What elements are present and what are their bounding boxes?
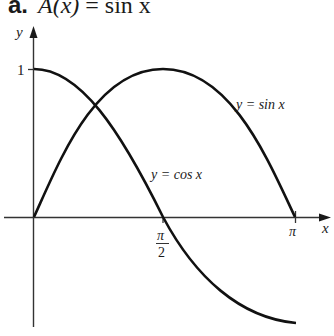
plot-area: y x 1 π 2 π y = sin x y = cos x [0, 0, 334, 336]
x-tick-label-pi-over-2-den: 2 [158, 245, 165, 260]
x-axis-label: x [321, 220, 329, 236]
sin-curve [34, 69, 295, 217]
y-axis-arrow-icon [30, 26, 38, 38]
sin-curve-label: y = sin x [234, 97, 285, 112]
x-tick-label-pi-over-2-num: π [157, 228, 165, 243]
y-axis-label: y [14, 24, 23, 40]
y-tick-label-1: 1 [17, 62, 25, 78]
cos-curve-label: y = cos x [149, 167, 203, 182]
x-tick-label-pi: π [289, 224, 297, 239]
